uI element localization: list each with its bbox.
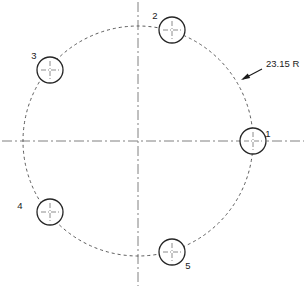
hole-5[interactable]: 5 xyxy=(159,239,191,271)
hole-circle-2[interactable] xyxy=(159,17,185,43)
hole-3[interactable]: 3 xyxy=(31,50,63,83)
hole-circle-5[interactable] xyxy=(159,239,185,265)
hole-circle-1[interactable] xyxy=(240,128,266,154)
hole-1[interactable]: 1 xyxy=(240,128,271,154)
hole-circle-3[interactable] xyxy=(37,57,63,83)
hole-label-3: 3 xyxy=(31,50,36,61)
dimension-radius-label: 23.15 R xyxy=(266,58,299,69)
hole-circle-4[interactable] xyxy=(37,199,63,225)
engineering-drawing-canvas: 12345 23.15 R xyxy=(0,0,306,288)
hole-4[interactable]: 4 xyxy=(17,199,63,225)
hole-label-1: 1 xyxy=(265,128,270,139)
hole-label-5: 5 xyxy=(185,260,190,271)
dimension-group: 23.15 R xyxy=(241,58,299,80)
hole-2[interactable]: 2 xyxy=(152,10,185,43)
hole-label-2: 2 xyxy=(152,10,157,21)
dimension-arrowhead-icon xyxy=(241,74,250,80)
hole-label-4: 4 xyxy=(17,200,22,211)
drawing-svg: 12345 23.15 R xyxy=(0,0,306,288)
